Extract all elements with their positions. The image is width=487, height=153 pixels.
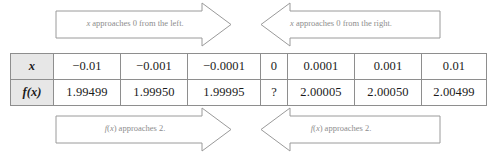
cell-x-5: 0.001: [355, 54, 422, 80]
cell-fx-4: 2.00005: [288, 80, 355, 106]
row-label-x: x: [11, 54, 54, 80]
table-row-fx: f(x) 1.99499 1.99950 1.99995 ? 2.00005 2…: [11, 80, 487, 106]
value-table: x −0.01 −0.001 −0.0001 0 0.0001 0.001 0.…: [10, 53, 487, 106]
cell-fx-0: 1.99499: [54, 80, 121, 106]
cell-fx-1: 1.99950: [121, 80, 188, 106]
cell-x-4: 0.0001: [288, 54, 355, 80]
label-x-approaches-from-left: x approaches 0 from the left.: [60, 18, 210, 28]
cell-x-6: 0.01: [422, 54, 487, 80]
cell-x-1: −0.001: [121, 54, 188, 80]
value-table-container: x −0.01 −0.001 −0.0001 0 0.0001 0.001 0.…: [10, 53, 452, 106]
label-fx-approaches-2-right: f(x) approaches 2.: [246, 123, 436, 133]
cell-x-0: −0.01: [54, 54, 121, 80]
table-row-x: x −0.01 −0.001 −0.0001 0 0.0001 0.001 0.…: [11, 54, 487, 80]
bottom-arrow-band: f(x) approaches 2. f(x) approaches 2.: [0, 107, 462, 153]
cell-fx-3: ?: [261, 80, 288, 106]
cell-fx-2: 1.99995: [188, 80, 261, 106]
label-x-approaches-from-right: x approaches 0 from the right.: [246, 18, 436, 28]
cell-x-3: 0: [261, 54, 288, 80]
cell-x-2: −0.0001: [188, 54, 261, 80]
label-fx-approaches-2-left: f(x) approaches 2.: [60, 123, 210, 133]
cell-fx-6: 2.00499: [422, 80, 487, 106]
row-label-fx: f(x): [11, 80, 54, 106]
top-arrow-band: x approaches 0 from the left. x approach…: [0, 2, 462, 48]
cell-fx-5: 2.00050: [355, 80, 422, 106]
